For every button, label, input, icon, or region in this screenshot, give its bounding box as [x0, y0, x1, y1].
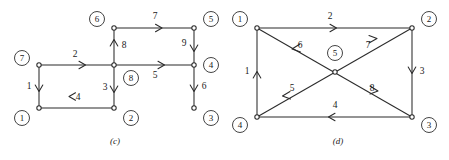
vertex-dot-c-7[interactable] [37, 63, 41, 67]
panel-c-group: 1 2 3 4 5 6 7 8 1 2 3 [15, 11, 219, 146]
edge-label-d-1: 1 [245, 66, 250, 76]
panel-d-group: 1 2 3 4 5 1 2 3 4 5 6 7 8 (d [233, 11, 437, 146]
edge-label-c-5: 5 [153, 70, 158, 80]
vertex-label-d-3: 3 [427, 120, 432, 130]
panel-d-caption: (d) [333, 136, 344, 146]
vertex-label-c-5: 5 [209, 14, 214, 24]
vertex-dot-c-3[interactable] [192, 106, 196, 110]
edge-label-c-4: 4 [76, 92, 81, 102]
vertex-label-c-4: 4 [209, 60, 214, 70]
vertex-dot-d-4[interactable] [255, 115, 259, 119]
edge-label-d-8: 8 [370, 83, 375, 93]
panel-c-arrowheads [35, 24, 198, 100]
vertex-dot-c-2[interactable] [112, 106, 116, 110]
edge-label-c-8: 8 [122, 40, 127, 50]
vertex-dot-c-1[interactable] [37, 106, 41, 110]
panel-c-caption: (c) [110, 136, 120, 146]
edge-label-d-4: 4 [333, 100, 338, 110]
edge-label-c-2: 2 [73, 49, 78, 59]
vertex-label-c-6: 6 [95, 14, 100, 24]
edge-label-c-9: 9 [182, 38, 187, 48]
edge-label-c-7: 7 [153, 11, 158, 21]
vertex-dot-c-5[interactable] [192, 26, 196, 30]
arrowhead-c-4 [69, 93, 76, 101]
graph-drawing-layer: 1 2 3 4 5 6 7 8 1 2 3 [0, 0, 449, 160]
vertex-label-d-5: 5 [333, 48, 338, 58]
edge-label-d-6: 6 [298, 40, 303, 50]
edge-label-c-1: 1 [27, 81, 32, 91]
vertex-label-c-1: 1 [20, 113, 25, 123]
edge-label-d-5: 5 [290, 83, 295, 93]
vertex-label-d-2: 2 [427, 14, 432, 24]
vertex-label-c-8: 8 [129, 73, 134, 83]
vertex-dot-d-5[interactable] [333, 70, 337, 74]
vertex-dot-c-8[interactable] [112, 63, 116, 67]
edge-label-d-7: 7 [366, 40, 371, 50]
vertex-dot-d-2[interactable] [410, 26, 414, 30]
vertex-dot-c-6[interactable] [112, 26, 116, 30]
vertex-label-d-4: 4 [238, 120, 243, 130]
edge-label-c-6: 6 [202, 81, 207, 91]
vertex-label-d-1: 1 [238, 14, 243, 24]
edge-label-c-3: 3 [103, 82, 108, 92]
edge-label-d-3: 3 [420, 66, 425, 76]
panel-c-vertex-dots [37, 26, 196, 110]
vertex-dot-c-4[interactable] [192, 63, 196, 67]
vertex-label-c-2: 2 [129, 113, 134, 123]
vertex-dot-d-3[interactable] [410, 115, 414, 119]
panel-c-edges [39, 28, 194, 108]
figure-canvas: 1 2 3 4 5 6 7 8 1 2 3 [0, 0, 449, 160]
vertex-label-c-7: 7 [20, 53, 25, 63]
edge-label-d-2: 2 [328, 11, 333, 21]
vertex-dot-d-1[interactable] [255, 26, 259, 30]
vertex-label-c-3: 3 [209, 113, 214, 123]
